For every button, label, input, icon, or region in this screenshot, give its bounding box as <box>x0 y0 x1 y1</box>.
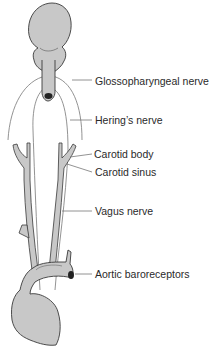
right-carotid-artery <box>49 143 76 270</box>
label-carotid-body: Carotid body <box>94 148 154 160</box>
label-glossopharyngeal-nerve: Glossopharyngeal nerve <box>95 75 209 87</box>
label-herings-nerve: Hering’s nerve <box>95 114 163 126</box>
brain <box>29 3 72 101</box>
label-carotid-sinus: Carotid sinus <box>95 166 156 178</box>
label-aortic-baroreceptors: Aortic baroreceptors <box>95 268 190 280</box>
label-vagus-nerve: Vagus nerve <box>95 205 153 217</box>
heart-and-aorta <box>11 250 74 345</box>
